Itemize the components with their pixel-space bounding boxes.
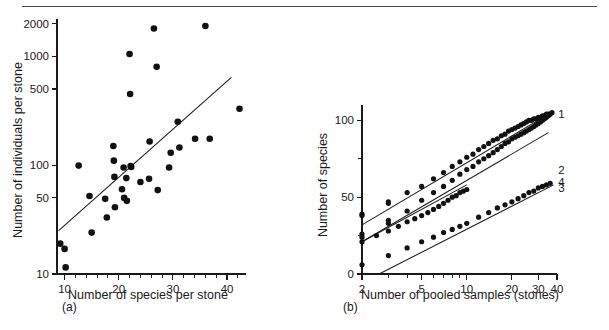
data-point <box>111 157 118 164</box>
panel-b-y-tick-label: 0 <box>348 268 354 280</box>
data-point <box>481 144 486 149</box>
data-point <box>457 224 462 229</box>
series-label-2: 2 <box>558 164 564 176</box>
data-point <box>546 113 551 118</box>
data-point <box>86 193 93 200</box>
data-point <box>104 214 111 221</box>
data-point <box>476 159 481 164</box>
data-point <box>405 219 410 224</box>
data-point <box>123 175 130 182</box>
data-point <box>167 149 174 156</box>
data-point <box>236 105 243 112</box>
data-point <box>120 164 127 171</box>
panel-a-y-tick-label: 50 <box>36 192 49 204</box>
data-point <box>419 198 424 203</box>
data-point <box>119 186 126 193</box>
panel-a-y-tick-label: 2000 <box>23 18 49 30</box>
data-point <box>405 190 410 195</box>
panel-a-data-points <box>57 23 243 271</box>
data-point <box>476 215 481 220</box>
panel-a-x-axis-title: Number of species per stone <box>68 288 228 302</box>
data-point <box>359 211 364 216</box>
data-point <box>405 208 410 213</box>
data-point <box>396 224 401 229</box>
data-point <box>386 253 391 258</box>
data-point <box>509 199 514 204</box>
data-point <box>464 155 469 160</box>
data-point <box>57 240 64 247</box>
data-point <box>102 196 109 203</box>
panel-b-x-axis-title: Number of pooled samples (stones) <box>361 288 559 302</box>
data-point <box>111 174 118 181</box>
data-point <box>128 164 135 171</box>
data-point <box>464 221 469 226</box>
data-point <box>359 239 364 244</box>
data-point <box>431 235 436 240</box>
panel-a-svg: 10501005001000200010203040 Number of spe… <box>0 0 305 330</box>
data-point <box>425 210 430 215</box>
data-point <box>126 51 133 58</box>
data-point <box>154 187 161 194</box>
data-point <box>419 239 424 244</box>
data-point <box>450 164 455 169</box>
data-point <box>521 193 526 198</box>
data-point <box>526 190 531 195</box>
data-point <box>153 64 160 71</box>
data-point <box>419 184 424 189</box>
data-point <box>457 172 462 177</box>
data-point <box>88 229 95 236</box>
data-point <box>137 179 144 186</box>
panel-a-y-axis-title: Number of individuals per stone <box>11 62 25 238</box>
panel-b-y-axis-title: Number of species <box>316 133 330 237</box>
panel-b-y-tick-label: 50 <box>341 191 354 203</box>
panel-b-letter: (b) <box>343 300 358 314</box>
series-label-4: 4 <box>558 176 565 188</box>
data-point <box>61 246 68 253</box>
data-point <box>124 198 131 205</box>
panel-a: 10501005001000200010203040 Number of spe… <box>0 0 305 330</box>
data-point <box>486 153 491 158</box>
data-point <box>450 227 455 232</box>
data-point <box>491 150 496 155</box>
data-point <box>548 181 553 186</box>
figure-root: 10501005001000200010203040 Number of spe… <box>0 0 609 330</box>
data-point <box>386 218 391 223</box>
data-point <box>146 175 153 182</box>
panel-b-svg: 0501002510203040 1234 Number of pooled s… <box>305 0 609 330</box>
panel-a-y-tick-label: 500 <box>30 83 49 95</box>
panel-a-tick-labels: 10501005001000200010203040 <box>23 18 233 295</box>
panel-b-data-points <box>359 110 554 267</box>
data-point <box>457 159 462 164</box>
data-point <box>146 138 153 145</box>
data-point <box>481 156 486 161</box>
panel-a-letter: (a) <box>62 300 77 314</box>
data-point <box>176 144 183 151</box>
data-point <box>502 202 507 207</box>
data-point <box>515 196 520 201</box>
panel-b-tick-labels: 0501002510203040 <box>335 114 564 295</box>
data-point <box>359 262 364 267</box>
data-point <box>431 207 436 212</box>
data-point <box>75 162 82 169</box>
panel-a-axes <box>52 19 246 280</box>
data-point <box>464 167 469 172</box>
data-point <box>450 178 455 183</box>
data-point <box>486 141 491 146</box>
data-point <box>359 231 364 236</box>
data-point <box>531 188 536 193</box>
data-point <box>110 143 117 150</box>
panel-b-y-tick-label: 100 <box>335 114 354 126</box>
data-point <box>112 204 119 211</box>
data-point <box>470 164 475 169</box>
data-point <box>412 216 417 221</box>
data-point <box>436 204 441 209</box>
data-point <box>62 264 69 271</box>
data-point <box>386 228 391 233</box>
data-point <box>419 213 424 218</box>
data-point <box>441 201 446 206</box>
data-point <box>464 187 469 192</box>
series-label-1: 1 <box>558 108 564 120</box>
data-point <box>445 198 450 203</box>
panel-a-y-tick-label: 10 <box>36 268 49 280</box>
series-fit-line <box>379 185 554 274</box>
